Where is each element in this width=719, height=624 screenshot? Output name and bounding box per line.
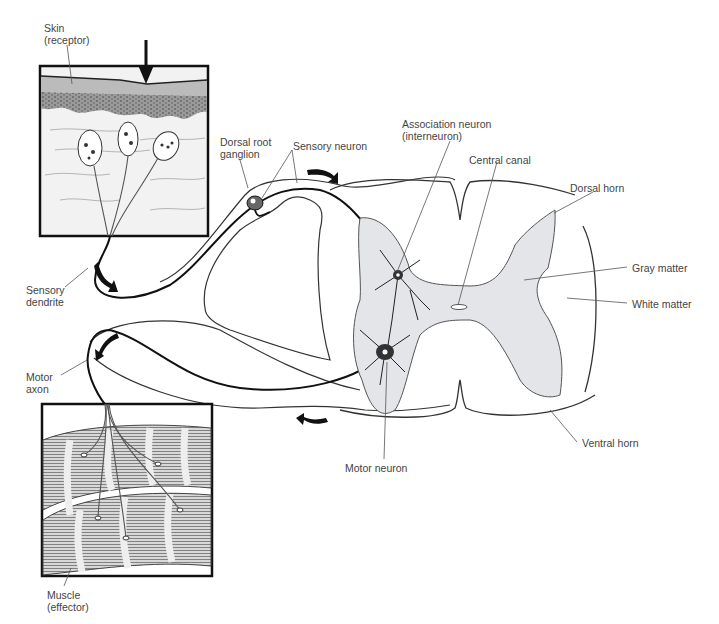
label-gray-matter: Gray matter [632,262,687,274]
label-white-matter: White matter [632,298,692,310]
gray-matter [354,210,562,413]
label-association-neuron: Association neuron (interneuron) [402,118,491,142]
central-canal [451,305,467,310]
skin-receptor-panel [40,66,208,236]
label-dorsal-root-ganglion: Dorsal root ganglion [220,136,271,160]
label-ventral-horn: Ventral horn [582,437,639,449]
label-skin-receptor: Skin (receptor) [44,22,90,46]
label-central-canal: Central canal [469,154,531,166]
label-dorsal-horn: Dorsal horn [570,182,624,194]
label-sensory-neuron: Sensory neuron [293,140,367,152]
label-muscle-effector: Muscle (effector) [47,589,89,613]
label-motor-neuron: Motor neuron [345,462,407,474]
label-motor-axon: Motor axon [26,371,53,395]
label-sensory-dendrite: Sensory dendrite [26,284,65,308]
muscle-effector-panel [42,404,212,576]
reflex-arc-diagram [0,0,719,624]
dorsal-root-ganglion-cell [247,196,263,210]
spinal-cord-section [330,180,596,418]
